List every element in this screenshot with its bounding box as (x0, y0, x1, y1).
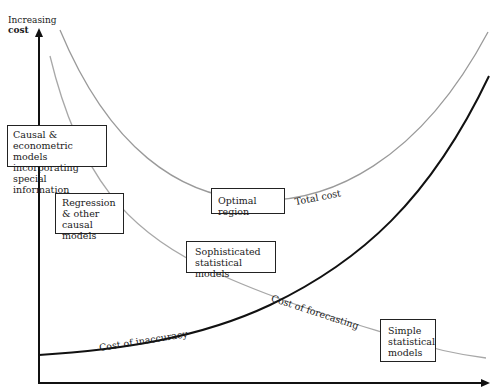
sophisticated-statistical-box: Sophisticated statistical models (186, 241, 276, 273)
x-axis-arrow-icon (481, 379, 490, 387)
sophisticated-box-line1: Sophisticated (195, 246, 267, 257)
y-axis-label-line2: cost (8, 25, 56, 35)
simple-box-line1: Simple (388, 325, 428, 336)
y-axis-label: Increasing cost (8, 15, 56, 35)
y-axis-label-line1: Increasing (8, 15, 56, 25)
causal-econometric-box: Causal & econometric models incorporatin… (7, 125, 107, 167)
causal-box-line2: models incorporating (13, 151, 101, 173)
optimal-region-box: Optimal region (211, 188, 285, 214)
total-cost-curve (60, 30, 488, 200)
causal-box-line3: special information (13, 173, 101, 195)
simple-statistical-box: Simple statistical models (380, 319, 436, 362)
causal-box-line1: Causal & econometric (13, 129, 101, 151)
regression-box-line1: Regression (62, 197, 117, 208)
simple-box-line3: models (388, 347, 428, 358)
optimal-region-label: Optimal region (218, 195, 278, 217)
regression-box-line2: & other (62, 208, 117, 219)
regression-box-line3: causal models (62, 219, 117, 241)
simple-box-line2: statistical (388, 336, 428, 347)
regression-box: Regression & other causal models (55, 193, 124, 234)
sophisticated-box-line2: statistical models (195, 257, 267, 279)
